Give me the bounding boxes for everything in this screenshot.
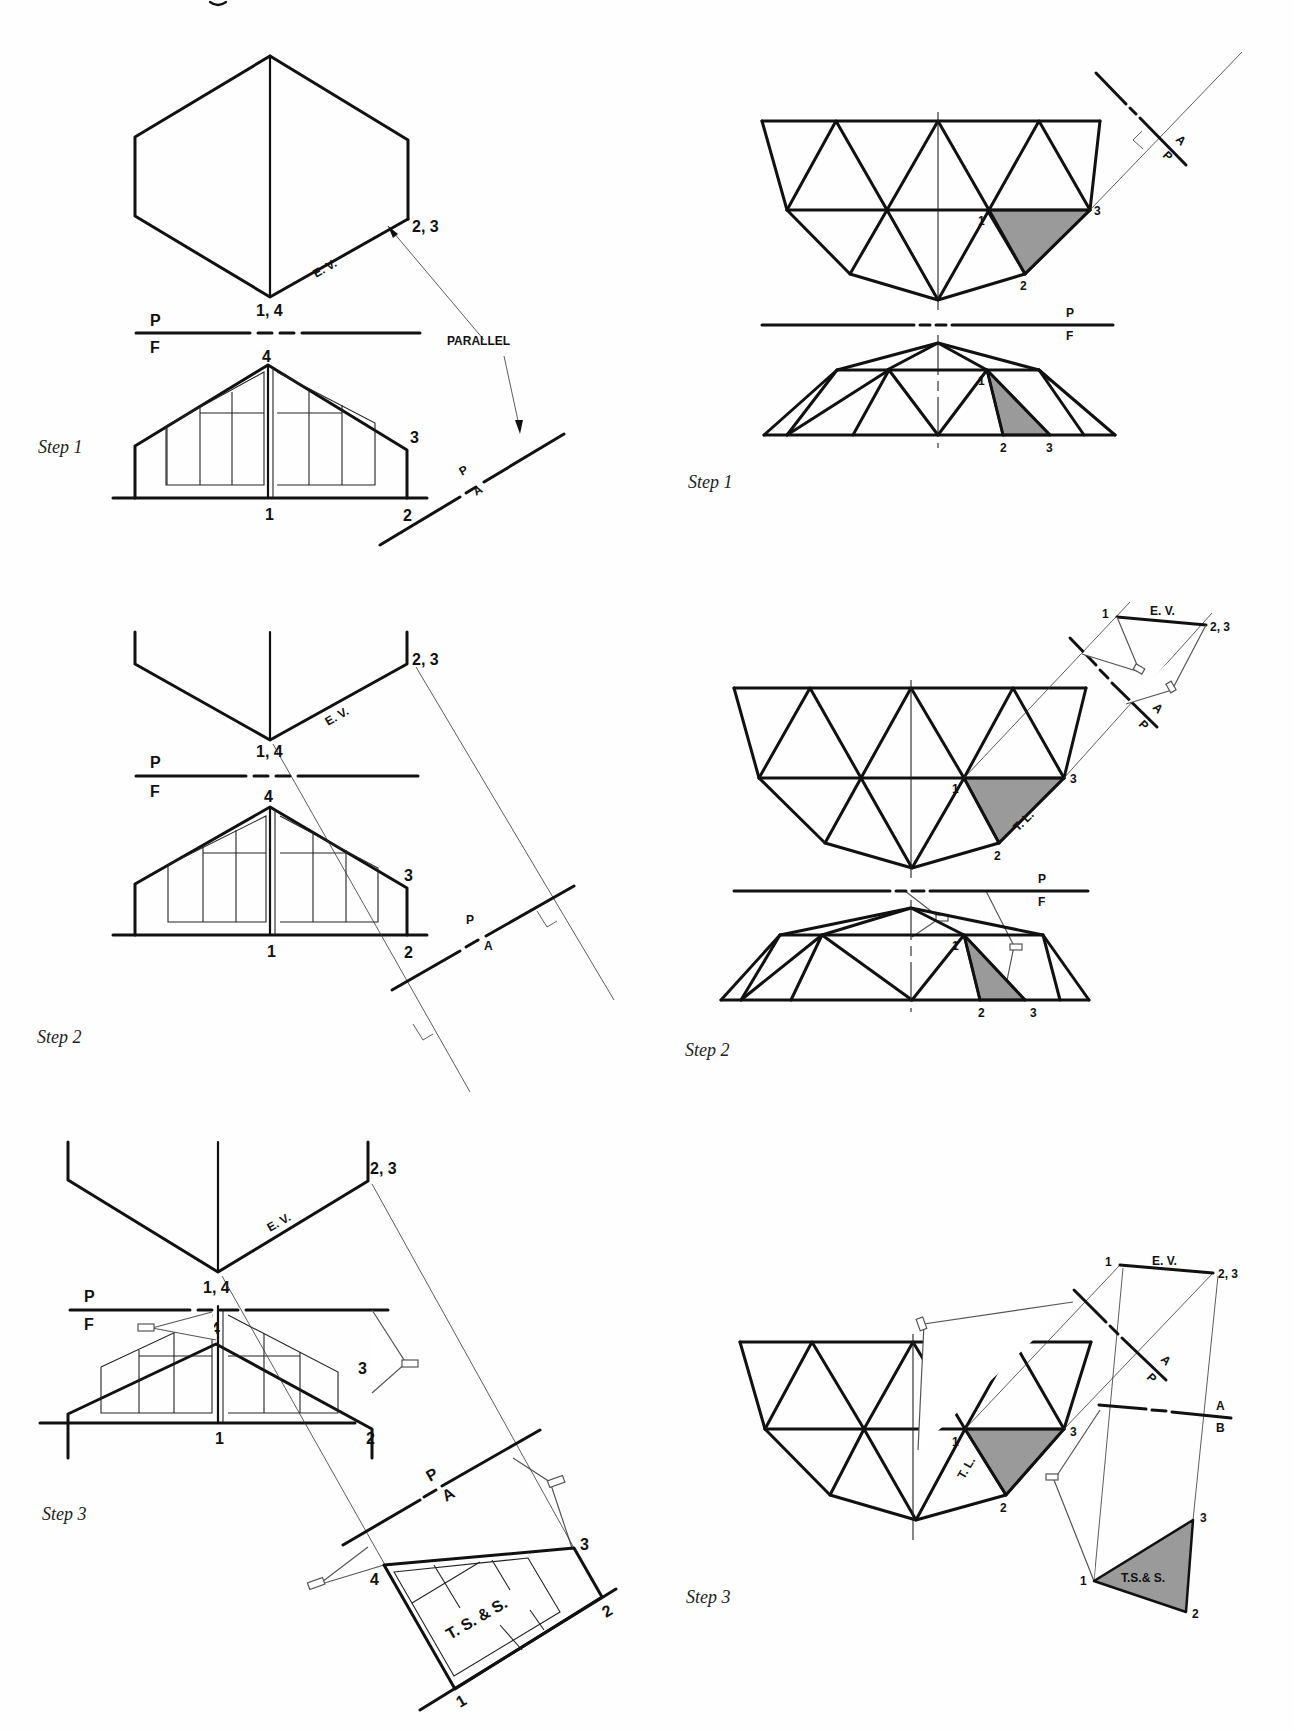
projection-lines [222,1184,574,1689]
descriptive-geometry-page: 2, 3 1, 4 E. V. P F 4 3 1 2 [0,0,1294,1731]
aux-fold-label-p: P [423,1464,441,1484]
aux-fold-label-p: P [1136,717,1152,733]
fold-label-f: F [1038,895,1045,909]
step-label: Step 2 [685,1040,730,1060]
step-label: Step 2 [37,1027,82,1047]
aux-fold-label-a: A [1158,1352,1174,1368]
point-label-3: 3 [410,429,419,446]
step-label: Step 1 [688,472,733,492]
fold-label-f: F [150,783,160,800]
point-label-1-4: 1, 4 [256,302,283,319]
aux-point-label-2-3: 2, 3 [1218,1267,1238,1281]
aux-fold-label-p: P [1160,148,1176,164]
projection-line [1090,52,1242,210]
point-label-2: 2 [1000,1501,1007,1515]
aux-fold-label-a: A [471,482,486,499]
dome-top-view [734,680,1086,878]
dome-front-view [721,900,1089,1012]
ts-point-label-2: 2 [599,1601,615,1620]
auxiliary-fold-line-p-a [392,886,574,990]
projection-lines [273,667,614,1092]
aux-point-label-1: 1 [1102,607,1109,621]
house-front-view [113,365,427,498]
point-label-2: 2 [366,1430,375,1447]
edge-view-label: E. V. [1152,1254,1177,1268]
aux-fold-label-b: B [1216,1421,1225,1435]
aux-fold-label-p: P [457,462,471,478]
dome-top-view [740,1334,1091,1540]
point-label-1: 1 [978,374,985,388]
true-shape-triangle [1094,1520,1193,1612]
point-label-1-4: 1, 4 [203,1279,230,1296]
dome-step-1-panel: 1 3 2 P A P F [688,52,1242,492]
aux-fold-label-a: A [1173,132,1189,148]
ts-point-label-3: 3 [1200,1511,1207,1525]
house-top-view-hexagon [135,56,408,297]
point-label-4: 4 [262,348,271,365]
point-label-2: 2 [1000,441,1007,455]
point-label-1: 1 [952,1435,959,1449]
point-label-2: 2 [403,507,412,524]
dome-step-2-panel: 1 3 2 T. L. P A 1 2, 3 E. V. [685,602,1230,1060]
parallel-arrows [388,226,523,434]
true-shape-label: T. S. & S. [443,1594,510,1643]
aux-fold-label-a: A [1216,1399,1225,1413]
point-label-2: 2 [1020,279,1027,293]
house-front-view [113,807,427,935]
fold-label-p: P [1038,872,1046,886]
aux-fold-label-p: P [1144,1370,1160,1386]
step-label: Step 3 [686,1587,731,1607]
point-label-2-3: 2, 3 [370,1160,397,1177]
true-shape-view [384,1548,616,1710]
aux-fold-label-p: P [466,913,474,927]
edge-view-label: E. V. [1150,604,1175,618]
second-auxiliary-fold-line-a-b [1099,1405,1231,1418]
true-shape-label: T.S.& S. [1121,1571,1165,1585]
edge-view-line [1117,617,1206,625]
house-step-3-panel: 2, 3 1, 4 E. V. P F 4 3 1 2 [40,1142,616,1711]
aux-fold-label-a: A [484,939,493,953]
true-length-label: T. L. [954,1454,978,1481]
point-label-1: 1 [978,214,985,228]
page-header-fragment [210,2,226,5]
fold-label-f: F [1066,329,1073,343]
divider-transfer-marks [905,617,1206,1000]
ts-point-label-4: 4 [370,1571,379,1588]
point-label-2: 2 [404,944,413,961]
step-label: Step 3 [42,1504,87,1524]
ts-point-label-3: 3 [580,1536,589,1553]
point-label-2: 2 [978,1006,985,1020]
house-step-2-panel: 2, 3 1, 4 E. V. P F 4 3 1 2 [37,632,614,1092]
fold-label-p: P [150,312,161,329]
fold-label-f: F [84,1316,94,1333]
aux-point-label-2-3: 2, 3 [1210,620,1230,634]
ts-point-label-2: 2 [1192,1607,1199,1621]
edge-view-label: E. V. [265,1210,294,1235]
point-label-3: 3 [358,1360,367,1377]
house-step-1-panel: 2, 3 1, 4 E. V. P F 4 3 1 2 [38,56,564,545]
point-label-1: 1 [952,939,959,953]
point-label-3: 3 [1046,441,1053,455]
step-label: Step 1 [38,437,83,457]
point-label-1: 1 [267,943,276,960]
point-label-2-3: 2, 3 [412,651,439,668]
ts-point-label-1: 1 [453,1691,469,1710]
fold-label-p: P [84,1288,95,1305]
aux-fold-label-a: A [1150,700,1166,716]
point-label-1: 1 [952,782,959,796]
parallel-annotation: PARALLEL [447,334,510,348]
point-label-2: 2 [994,849,1001,863]
point-label-4: 4 [264,788,273,805]
dome-top-view [762,112,1100,310]
point-label-1: 1 [215,1430,224,1447]
dome-front-view [764,335,1115,448]
house-top-view-partial [68,1142,368,1272]
ts-point-label-1: 1 [1080,1574,1087,1588]
house-top-view-partial [135,632,407,740]
point-label-3: 3 [1070,772,1077,786]
point-label-3: 3 [404,867,413,884]
point-label-3: 3 [1070,1425,1077,1439]
fold-label-p: P [1066,306,1074,320]
dome-step-3-panel: 1 3 2 T. L. P A 1 2, 3 E. V. A B [686,1254,1238,1621]
fold-label-p: P [150,754,161,771]
